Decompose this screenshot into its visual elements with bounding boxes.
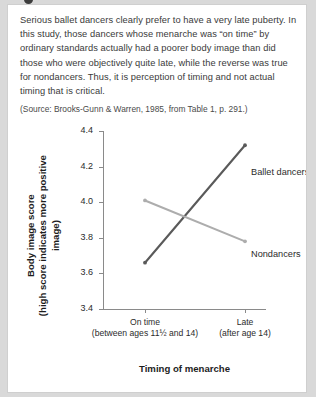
plot-area: 3.4 3.6 3.8 4.0 4.2 4.4 (103, 131, 266, 309)
series-line-1 (145, 200, 245, 241)
screenshot-root: Serious ballet dancers clearly prefer to… (0, 0, 316, 397)
y-tick-label-0: 3.4 (80, 303, 93, 313)
x-category-1: Late (237, 317, 254, 327)
series-label-nondancers: Nondancers (251, 249, 301, 259)
x-axis-title: Timing of menarche (103, 363, 266, 374)
x-category-sub-0: (between ages 11½ and 14) (92, 328, 198, 338)
x-category-sub-1: (after age 14) (219, 328, 271, 338)
y-tick-label-5: 4.4 (80, 125, 93, 135)
data-point-1-1 (243, 239, 247, 243)
source-citation: (Source: Brooks-Gunn & Warren, 1985, fro… (20, 103, 299, 115)
x-category-0: On time (130, 317, 160, 327)
caption-paragraph: Serious ballet dancers clearly prefer to… (20, 13, 299, 98)
y-axis-title: Body image score (high score indicates m… (25, 141, 62, 331)
data-point-1-0 (143, 199, 147, 203)
y-tick-label-3: 4.0 (80, 196, 93, 206)
data-point-0-1 (243, 143, 247, 147)
x-axis-line (103, 309, 266, 310)
data-point-0-0 (143, 261, 147, 265)
y-tick-label-2: 3.8 (80, 232, 93, 242)
series-line-0 (145, 145, 245, 262)
x-tick-late (245, 309, 246, 313)
y-axis-title-main: Body image score (25, 194, 36, 277)
series-label-ballet-dancers: Ballet dancers (251, 167, 307, 177)
figure-card: Serious ballet dancers clearly prefer to… (7, 4, 307, 393)
line-chart: Body image score (high score indicates m… (8, 123, 307, 393)
y-axis-title-sub: (high score indicates more positive imag… (38, 155, 61, 316)
series-lines (103, 131, 266, 309)
y-tick-label-1: 3.6 (80, 267, 93, 277)
y-tick-label-4: 4.2 (80, 161, 93, 171)
x-tick-label-late: Late (after age 14) (190, 317, 300, 340)
y-tick-3.4: 3.4 (99, 309, 104, 310)
x-tick-on-time (145, 309, 146, 313)
x-tick-label-on-time: On time (between ages 11½ and 14) (90, 317, 200, 340)
